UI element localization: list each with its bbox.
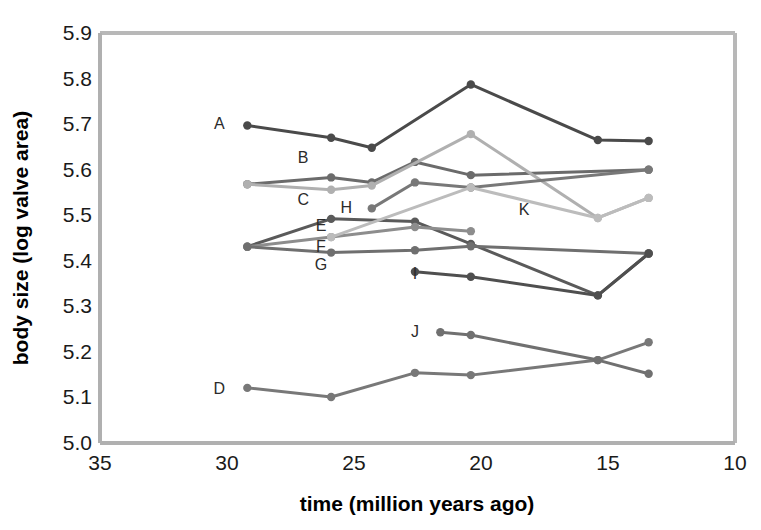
series-label-b: B — [298, 149, 309, 166]
series-data-point — [327, 134, 335, 142]
y-tick-label: 5.1 — [63, 385, 92, 408]
series-data-point — [327, 233, 335, 241]
series-data-point — [243, 180, 251, 188]
series-data-point — [411, 369, 419, 377]
x-tick-label: 15 — [596, 451, 619, 474]
series-data-point — [243, 121, 251, 129]
series-label-e: E — [316, 217, 327, 234]
series-data-point — [644, 165, 652, 173]
series-data-point — [411, 246, 419, 254]
series-label-f: F — [316, 238, 326, 255]
series-data-point — [243, 384, 251, 392]
series-data-point — [594, 356, 602, 364]
series-data-point — [368, 181, 376, 189]
series-data-point — [594, 291, 602, 299]
series-data-point — [327, 186, 335, 194]
series-data-point — [327, 173, 335, 181]
series-data-point — [368, 144, 376, 152]
series-data-point — [467, 371, 475, 379]
series-data-point — [411, 223, 419, 231]
series-data-point — [467, 273, 475, 281]
series-label-d: D — [214, 380, 226, 397]
y-tick-label: 5.2 — [63, 340, 92, 363]
series-label-k: K — [519, 201, 530, 218]
series-label-c: C — [297, 191, 309, 208]
series-data-point — [467, 183, 475, 191]
series-data-point — [327, 215, 335, 223]
series-data-point — [644, 249, 652, 257]
series-label-h: H — [341, 199, 353, 216]
series-data-point — [327, 393, 335, 401]
series-data-point — [436, 328, 444, 336]
series-data-point — [467, 227, 475, 235]
y-axis-title: body size (log valve area) — [9, 111, 32, 365]
y-tick-label: 5.7 — [63, 112, 92, 135]
series-label-j: J — [411, 323, 419, 340]
y-tick-label: 5.3 — [63, 294, 92, 317]
series-data-point — [327, 248, 335, 256]
series-data-point — [411, 178, 419, 186]
series-data-point — [594, 214, 602, 222]
y-tick-label: 5.8 — [63, 67, 92, 90]
series-data-point — [243, 242, 251, 250]
series-data-point — [467, 171, 475, 179]
series-data-point — [594, 136, 602, 144]
series-data-point — [368, 204, 376, 212]
series-label-i: I — [413, 265, 417, 282]
chart-figure: 5.95.85.75.65.55.45.35.25.15.0 353025201… — [0, 0, 761, 530]
series-data-point — [644, 194, 652, 202]
line-chart-canvas: 5.95.85.75.65.55.45.35.25.15.0 353025201… — [0, 0, 761, 530]
x-tick-label: 10 — [723, 451, 746, 474]
y-tick-label: 5.5 — [63, 203, 92, 226]
x-tick-label: 30 — [215, 451, 238, 474]
chart-background — [0, 0, 761, 530]
x-tick-label: 35 — [88, 451, 111, 474]
series-data-point — [644, 338, 652, 346]
x-tick-label: 20 — [469, 451, 492, 474]
series-label-a: A — [214, 115, 225, 132]
series-data-point — [467, 130, 475, 138]
series-data-point — [467, 80, 475, 88]
x-tick-label: 25 — [342, 451, 365, 474]
series-data-point — [467, 331, 475, 339]
series-data-point — [467, 242, 475, 250]
series-data-point — [644, 137, 652, 145]
y-tick-label: 5.9 — [63, 21, 92, 44]
x-axis-title: time (million years ago) — [300, 492, 535, 515]
y-tick-label: 5.6 — [63, 158, 92, 181]
series-label-g: G — [315, 256, 327, 273]
y-tick-label: 5.4 — [63, 249, 93, 272]
series-data-point — [644, 370, 652, 378]
